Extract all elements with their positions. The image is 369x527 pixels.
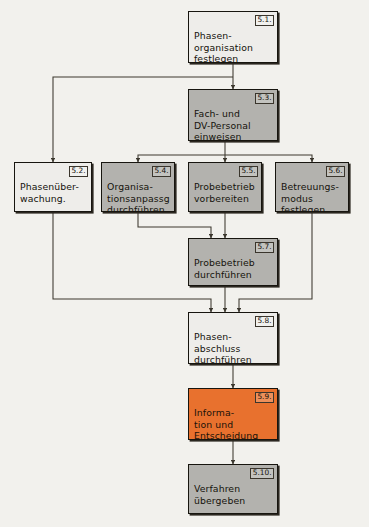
node-label: Verfahren übergeben: [194, 483, 273, 506]
process-node-n51[interactable]: 5.1.Phasen- organisation festlegen: [188, 11, 278, 63]
node-label: Fach- und DV-Personal einweisen: [194, 108, 273, 141]
node-number-badge: 5.5.: [239, 166, 258, 177]
node-label: Betreuungs- modus festlegen: [281, 181, 344, 212]
node-number-badge: 5.6.: [326, 166, 345, 177]
edge-53-to-56: [225, 155, 312, 162]
process-node-n510[interactable]: 5.10.Verfahren übergeben: [188, 464, 278, 514]
node-label: Phasenüber- wachung.: [20, 181, 87, 204]
node-number-badge: 5.9.: [255, 392, 274, 403]
node-label: Informa- tion und Entscheidung: [194, 407, 273, 440]
process-node-n56[interactable]: 5.6.Betreuungs- modus festlegen: [275, 162, 349, 212]
node-label: Phasen- abschluss durchführen: [194, 331, 273, 364]
process-node-n57[interactable]: 5.7.Probebetrieb durchführen: [188, 238, 278, 286]
process-node-n53[interactable]: 5.3.Fach- und DV-Personal einweisen: [188, 89, 278, 141]
node-label: Probebetrieb durchführen: [194, 257, 273, 280]
node-number-badge: 5.8.: [255, 316, 274, 327]
node-label: Phasen- organisation festlegen: [194, 30, 273, 63]
node-number-badge: 5.10.: [250, 468, 274, 479]
node-number-badge: 5.7.: [255, 242, 274, 253]
node-number-badge: 5.3.: [255, 93, 274, 104]
process-node-n52[interactable]: 5.2.Phasenüber- wachung.: [14, 162, 92, 212]
edge-54-to-57: [138, 212, 211, 238]
node-number-badge: 5.2.: [69, 166, 88, 177]
node-label: Organisa- tionsanpassg durchführen: [107, 181, 170, 212]
process-node-n54[interactable]: 5.4.Organisa- tionsanpassg durchführen: [101, 162, 175, 212]
process-node-n55[interactable]: 5.5.Probebetrieb vorbereiten: [188, 162, 262, 212]
node-number-badge: 5.4.: [152, 166, 171, 177]
node-number-badge: 5.1.: [255, 15, 274, 26]
edge-53-to-54: [138, 155, 225, 162]
node-label: Probebetrieb vorbereiten: [194, 181, 257, 204]
flowchart-diagram: 5.1.Phasen- organisation festlegen5.3.Fa…: [0, 0, 369, 527]
connector-layer: [0, 0, 369, 527]
process-node-n59[interactable]: 5.9.Informa- tion und Entscheidung: [188, 388, 278, 440]
process-node-n58[interactable]: 5.8.Phasen- abschluss durchführen: [188, 312, 278, 364]
